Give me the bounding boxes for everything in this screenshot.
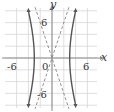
curve-arrow-icon [27,104,31,108]
x-axis-label: x [101,51,108,64]
axes [2,5,104,111]
hyperbola-graph: y x 6 -6 -6 6 0 [0,0,114,112]
y-axis-label: y [49,0,57,11]
y-tick-label-6: 6 [41,17,47,28]
curve-arrow-icon [73,8,77,12]
x-tick-label-6: 6 [83,61,89,72]
curve-arrow-icon [73,104,77,108]
curve-arrow-icon [27,8,31,12]
y-tick-label-neg6: -6 [37,89,47,100]
x-tick-label-neg6: -6 [7,61,17,72]
origin-label: 0 [42,61,48,72]
